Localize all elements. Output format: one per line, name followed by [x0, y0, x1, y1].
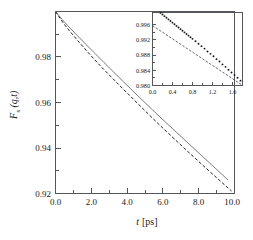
inset-data-point — [162, 14, 164, 16]
main-ytick-labels: 0.98 0.96 0.94 0.92 — [35, 52, 51, 199]
x-axis-title-symbol: t — [136, 216, 139, 227]
inset-axes — [153, 13, 243, 86]
inset-data-point — [195, 40, 197, 42]
inset-data-point — [237, 77, 239, 79]
y-axis-title-subscript: s — [14, 110, 22, 113]
inset-xtick-label: 0.4 — [169, 88, 177, 95]
plot-canvas: 0.0 2.0 4.0 6.0 8.0 10.0 0.98 0.96 0.94 … — [0, 0, 253, 240]
inset-data-point — [190, 36, 192, 38]
inset-data-point — [201, 45, 203, 47]
inset-series-simulation-points — [160, 12, 242, 82]
inset-data-point — [216, 58, 218, 60]
inset-ytick-label: 0.980 — [136, 82, 150, 89]
main-ytick-label: 0.96 — [35, 98, 51, 108]
inset-data-point — [188, 35, 190, 37]
inset-data-point — [192, 38, 194, 40]
inset-data-point — [228, 69, 230, 71]
y-axis-title-argument: (q,t) — [8, 90, 20, 108]
inset-xtick-label: 0.8 — [189, 88, 197, 95]
inset-ytick-label: 0.992 — [136, 36, 150, 43]
inset-ytick-label: 0.996 — [136, 21, 150, 28]
main-xtick-label: 2.0 — [86, 197, 98, 207]
inset-xticks-major — [153, 82, 233, 86]
inset-data-point — [176, 25, 178, 27]
x-axis-title: t [ps] — [136, 216, 157, 227]
inset-data-point — [160, 12, 162, 14]
inset-data-point — [225, 66, 227, 68]
main-ytick-label: 0.98 — [35, 52, 51, 62]
figure-container: 0.0 2.0 4.0 6.0 8.0 10.0 0.98 0.96 0.94 … — [0, 0, 253, 240]
main-xtick-label: 6.0 — [157, 197, 169, 207]
inset-data-point — [180, 28, 182, 30]
inset-data-point — [213, 55, 215, 57]
main-ytick-label: 0.92 — [35, 189, 51, 199]
inset-data-point — [168, 18, 170, 20]
inset-data-point — [204, 48, 206, 50]
main-xtick-labels: 0.0 2.0 4.0 6.0 8.0 10.0 — [50, 197, 241, 207]
inset-data-point — [240, 80, 242, 82]
inset-data-point — [164, 15, 166, 17]
inset-data-point — [219, 61, 221, 63]
inset-data-point — [172, 22, 174, 24]
main-xtick-label: 8.0 — [193, 197, 205, 207]
inset-data-point — [234, 74, 236, 76]
inset-data-point — [231, 72, 233, 74]
inset-data-point — [184, 31, 186, 33]
x-axis-title-unit: [ps] — [142, 216, 158, 227]
inset-data-point — [178, 27, 180, 29]
inset-data-point — [222, 63, 224, 65]
main-xtick-label: 0.0 — [50, 197, 62, 207]
inset-data-point — [198, 43, 200, 45]
inset-yticks-major — [153, 25, 157, 86]
inset-data-point — [210, 53, 212, 55]
inset-xtick-label: 1.2 — [209, 88, 217, 95]
inset-xtick-label: 1.6 — [229, 88, 237, 95]
inset-data-point — [170, 20, 172, 22]
inset-data-point — [207, 50, 209, 52]
inset-ytick-label: 0.988 — [136, 51, 150, 58]
inset-data-point — [166, 17, 168, 19]
inset-series-linear-fit — [153, 26, 243, 85]
inset-ytick-label: 0.984 — [136, 67, 150, 74]
inset-data-point — [174, 23, 176, 25]
main-xtick-label: 10.0 — [224, 197, 240, 207]
inset-ytick-labels: 0.996 0.992 0.988 0.984 0.980 — [136, 21, 150, 89]
inset-data-point — [182, 30, 184, 32]
main-ytick-label: 0.94 — [35, 143, 51, 153]
inset-frame — [153, 13, 243, 86]
inset-xtick-labels: 0.0 0.4 0.8 1.2 1.6 — [149, 88, 237, 95]
y-axis-title: F s (q,t) — [8, 90, 22, 120]
main-xtick-label: 4.0 — [121, 197, 133, 207]
inset-data-point — [186, 33, 188, 35]
